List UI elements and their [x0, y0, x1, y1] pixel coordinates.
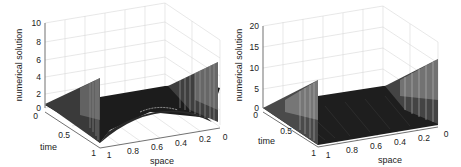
right-surface-plot: 20 15 10 5 0 numerical solution 0 0.5 1 … — [230, 0, 460, 167]
left-space-label: space — [150, 156, 174, 166]
svg-text:6: 6 — [36, 55, 41, 65]
left-plot-svg: 10 8 6 4 2 0 numerical solution 0 0.5 1 … — [0, 0, 230, 167]
svg-text:0: 0 — [253, 110, 258, 120]
svg-text:10: 10 — [250, 63, 260, 73]
svg-text:1: 1 — [311, 148, 316, 158]
right-time-label: time — [258, 136, 275, 146]
svg-text:4: 4 — [36, 72, 41, 82]
svg-text:20: 20 — [250, 21, 260, 31]
svg-text:0: 0 — [33, 111, 38, 121]
svg-text:0.8: 0.8 — [127, 146, 139, 156]
svg-text:5: 5 — [254, 84, 259, 94]
svg-text:1: 1 — [326, 150, 331, 160]
left-z-ticks: 10 8 6 4 2 0 — [32, 18, 42, 113]
svg-text:0: 0 — [444, 129, 449, 139]
svg-text:2: 2 — [36, 89, 41, 99]
svg-text:0: 0 — [223, 132, 228, 142]
left-time-label: time — [40, 142, 57, 152]
left-surface — [45, 62, 220, 143]
svg-text:1: 1 — [107, 150, 112, 160]
svg-text:8: 8 — [36, 37, 41, 47]
svg-text:0.4: 0.4 — [175, 138, 187, 148]
right-plot-svg: 20 15 10 5 0 numerical solution 0 0.5 1 … — [230, 0, 461, 167]
right-zlabel: numerical solution — [234, 29, 244, 102]
svg-text:10: 10 — [32, 18, 42, 28]
svg-text:0.5: 0.5 — [58, 130, 70, 140]
svg-text:1: 1 — [91, 148, 96, 158]
right-space-label: space — [378, 155, 402, 165]
svg-text:0.4: 0.4 — [394, 137, 406, 147]
svg-text:15: 15 — [250, 42, 260, 52]
left-surface-plot: 10 8 6 4 2 0 numerical solution 0 0.5 1 … — [0, 0, 230, 167]
left-zlabel: numerical solution — [14, 29, 24, 102]
svg-text:0.6: 0.6 — [370, 141, 382, 151]
svg-text:0.5: 0.5 — [280, 126, 292, 136]
svg-text:0.2: 0.2 — [418, 133, 430, 143]
svg-text:0.2: 0.2 — [199, 134, 211, 144]
right-z-ticks: 20 15 10 5 0 — [250, 21, 260, 113]
svg-text:0.8: 0.8 — [346, 145, 358, 155]
svg-text:0.6: 0.6 — [151, 142, 163, 152]
